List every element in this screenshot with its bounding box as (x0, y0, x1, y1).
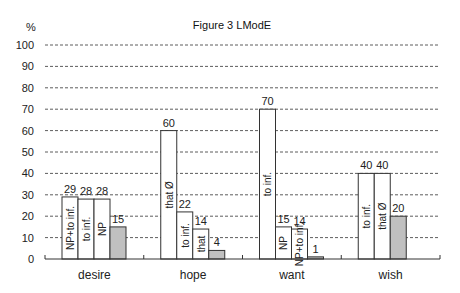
data-label: 15 (277, 213, 289, 225)
y-tick-label: 10 (22, 232, 34, 244)
data-label: 29 (64, 183, 76, 195)
y-tick-label: 70 (22, 103, 34, 115)
y-tick-label: 80 (22, 82, 34, 94)
data-label: 1 (312, 243, 318, 255)
data-label: 20 (392, 202, 404, 214)
x-category-label: desire (78, 268, 111, 282)
data-label: 22 (179, 198, 191, 210)
y-tick-label: 0 (28, 253, 34, 265)
chart-title: Figure 3 LModE (193, 19, 271, 31)
bar-inner-label: NP+to inf. (65, 206, 76, 250)
data-label: 40 (376, 159, 388, 171)
bar-inner-label: NP (279, 236, 290, 250)
data-label: 14 (195, 215, 207, 227)
x-category-label: wish (378, 268, 403, 282)
data-label: 70 (261, 95, 273, 107)
bar-inner-label: NP (97, 222, 108, 236)
data-label: 4 (214, 236, 220, 248)
bar-hope-other (209, 250, 225, 259)
y-tick-label: 90 (22, 60, 34, 72)
data-label: 28 (80, 185, 92, 197)
y-axis-label: % (26, 21, 36, 33)
y-tick-label: 20 (22, 210, 34, 222)
bar-inner-label: that (196, 235, 207, 252)
data-label: 60 (163, 117, 175, 129)
y-tick-label: 60 (22, 125, 34, 137)
y-tick-label: 40 (22, 167, 34, 179)
y-tick-label: 100 (16, 39, 34, 51)
bar-wish-other (390, 216, 406, 259)
bar-inner-label: that Ø (164, 181, 175, 208)
data-label: 28 (96, 185, 108, 197)
bar-inner-label: to inf. (81, 217, 92, 241)
y-tick-label: 50 (22, 146, 34, 158)
bar-chart: Figure 3 LModE % 0102030405060708090100 … (0, 0, 460, 293)
bar-inner-label: that Ø (377, 202, 388, 229)
bar-inner-label: to inf. (180, 223, 191, 247)
bar-inner-label: to inf. (263, 172, 274, 196)
x-category-label: want (278, 268, 305, 282)
bar-inner-label: to inf. (361, 204, 372, 228)
x-category-label: hope (180, 268, 207, 282)
data-label: 40 (360, 159, 372, 171)
bar-desire-other (110, 227, 126, 259)
y-tick-label: 30 (22, 189, 34, 201)
data-label: 15 (112, 213, 124, 225)
